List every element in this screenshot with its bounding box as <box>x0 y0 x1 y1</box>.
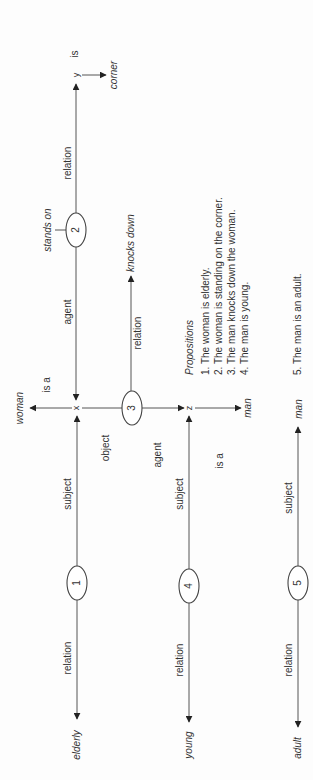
edge-label-subject-4: subject <box>174 478 185 510</box>
concept-adult: adult <box>292 736 303 759</box>
concept-woman: woman <box>14 391 25 424</box>
edge-label-object-3: object <box>100 434 111 461</box>
node-number: 4 <box>183 583 194 589</box>
concept-stands-on: stands on <box>42 208 53 252</box>
edge-label-agent-2: agent <box>62 299 73 324</box>
node-number: 3 <box>126 405 137 411</box>
concept-young: young <box>183 731 194 760</box>
edge-label-relation-4: relation <box>174 644 185 677</box>
proposition-node-1: 1 <box>67 566 87 600</box>
concept-knocks-down: knocks down <box>125 214 136 272</box>
edge-label-relation-2: relation <box>62 147 73 180</box>
concept-man-z: man <box>242 398 253 418</box>
node-number: 2 <box>70 227 81 233</box>
proposition-item-2: 2. The woman is standing on the corner. <box>213 197 224 375</box>
edge-label-relation-1: relation <box>62 642 73 675</box>
node-number: 5 <box>292 580 303 586</box>
proposition-node-5: 5 <box>288 566 308 600</box>
edge-label-agent-3: agent <box>152 442 163 467</box>
proposition-item-4: 4. The man is young. <box>239 282 250 375</box>
edge-label-subject-5: subject <box>283 482 294 514</box>
network-diagram: 2 3 1 4 5 y x z corner stands on knocks … <box>0 0 313 780</box>
diagram-canvas: 2 3 1 4 5 y x z corner stands on knocks … <box>0 0 313 780</box>
concept-corner: corner <box>108 60 119 89</box>
propositions-heading: Propositions <box>184 320 195 375</box>
concept-man-5: man <box>293 399 304 419</box>
proposition-item-1: 1. The woman is elderly. <box>200 268 211 375</box>
node-number: 1 <box>71 580 82 586</box>
proposition-item-5: 5. The man is an adult. <box>292 273 303 375</box>
edge-label-is-a-woman: is a <box>41 377 52 393</box>
edge-label-is: is <box>69 50 80 57</box>
variable-x: x <box>71 405 81 410</box>
proposition-node-4: 4 <box>179 569 199 603</box>
edge-label-relation-3: relation <box>132 317 143 350</box>
variable-y: y <box>71 72 81 77</box>
edge-label-subject-1: subject <box>62 478 73 510</box>
concept-elderly: elderly <box>71 729 82 759</box>
proposition-item-3: 3. The man knocks down the woman. <box>226 210 237 375</box>
edge-label-is-a-man: is a <box>214 453 225 469</box>
variable-z: z <box>184 405 194 410</box>
proposition-node-2: 2 <box>66 213 86 247</box>
proposition-node-3: 3 <box>122 391 142 425</box>
edge-label-relation-5: relation <box>283 644 294 677</box>
propositions-legend: Propositions 1. The woman is elderly. 2.… <box>184 197 303 375</box>
